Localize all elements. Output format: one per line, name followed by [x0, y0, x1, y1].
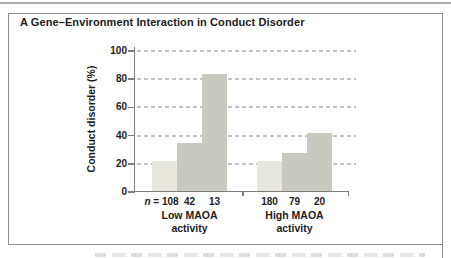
gridline-80 [137, 78, 356, 80]
group-label-line: High MAOA [245, 209, 345, 222]
ytick-100 [128, 50, 135, 52]
bar-high-maoa-n79 [282, 153, 307, 192]
ytick-0 [128, 191, 135, 193]
textbook-figure: A Gene–Environment Interaction in Conduc… [0, 0, 451, 258]
gridline-100 [137, 50, 356, 52]
ytick-label-20: 20 [101, 158, 127, 170]
n-label-20: 20 [300, 196, 340, 207]
group-label-high-maoa: High MAOAactivity [245, 209, 345, 234]
group-label-line: activity [245, 222, 345, 235]
bar-high-maoa-n20 [307, 133, 332, 192]
cropped-caption-text [95, 253, 425, 257]
group-label-line: activity [140, 222, 240, 235]
y-axis-line [134, 47, 136, 192]
bar-chart-plot-area: 020406080100n = 1084213Low MAOAactivity1… [0, 0, 451, 258]
group-divider-tick [242, 192, 244, 196]
ytick-label-80: 80 [101, 73, 127, 85]
figure-right-border [442, 245, 444, 258]
ytick-label-60: 60 [101, 101, 127, 113]
gridline-60 [137, 106, 356, 108]
bar-high-maoa-n180 [257, 161, 282, 192]
group-label-line: Low MAOA [140, 209, 240, 222]
n-symbol: n [144, 196, 150, 207]
ytick-label-0: 0 [101, 186, 127, 198]
bar-low-maoa-n108 [152, 161, 177, 192]
ytick-label-100: 100 [101, 45, 127, 57]
bar-low-maoa-n13 [202, 74, 227, 192]
n-label-13: 13 [195, 196, 235, 207]
bar-low-maoa-n42 [177, 143, 202, 192]
group-label-low-maoa: Low MAOAactivity [140, 209, 240, 234]
ytick-20 [128, 163, 135, 165]
ytick-60 [128, 107, 135, 109]
axis-end-tick [348, 192, 350, 196]
ytick-80 [128, 78, 135, 80]
ytick-40 [128, 135, 135, 137]
ytick-label-40: 40 [101, 130, 127, 142]
